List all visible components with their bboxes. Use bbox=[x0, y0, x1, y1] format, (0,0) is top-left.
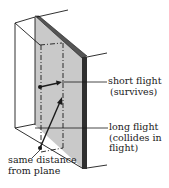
label-long-flight: long flight (collides in flight) bbox=[109, 122, 162, 154]
label-same-distance: same distance from plane bbox=[8, 155, 77, 176]
label-same-distance-line1: same distance bbox=[8, 155, 77, 166]
label-same-distance-line2: from plane bbox=[8, 166, 77, 177]
label-long-flight-line3: flight) bbox=[109, 143, 162, 154]
shaded-plane-panel bbox=[35, 17, 82, 168]
label-short-flight-line1: short flight bbox=[108, 76, 161, 87]
slab-right-edge bbox=[82, 57, 87, 169]
label-long-flight-line1: long flight bbox=[109, 122, 162, 133]
label-short-flight-line2: (survives) bbox=[110, 87, 161, 98]
label-short-flight: short flight (survives) bbox=[108, 76, 161, 97]
